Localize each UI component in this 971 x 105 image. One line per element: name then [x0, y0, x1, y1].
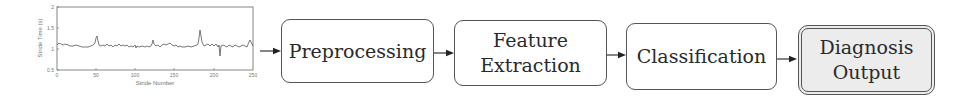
x-tick-label: 50 — [93, 72, 99, 78]
stride-time-plot: 2 1.5 1 0.5 0 50 100 150 200 250 Stride … — [0, 0, 262, 90]
arrow-plot-to-preprocessing — [260, 46, 282, 56]
x-tick-label: 200 — [210, 72, 219, 78]
y-tick-label: 0.5 — [47, 67, 54, 73]
preprocessing-label: Preprocessing — [289, 39, 427, 64]
arrow-right-icon — [434, 48, 455, 58]
x-tick-label: 150 — [170, 72, 179, 78]
x-axis-label: Stride Number — [136, 80, 175, 86]
stride-time-chart: 2 1.5 1 0.5 0 50 100 150 200 250 Stride … — [0, 0, 262, 90]
feature-extraction-label-line2: Extraction — [480, 53, 581, 78]
arrow-preprocessing-to-feature-extraction — [434, 48, 455, 58]
diagnosis-output-box: Diagnosis Output — [798, 25, 935, 95]
classification-box: Classification — [626, 23, 777, 90]
diagnosis-output-label-line2: Output — [833, 60, 900, 85]
diagnosis-output-label-line1: Diagnosis — [819, 35, 913, 60]
classification-label: Classification — [637, 44, 767, 69]
y-tick-label: 2 — [51, 4, 54, 10]
y-tick-label: 1 — [51, 46, 54, 52]
arrow-feature-extraction-to-classification — [607, 50, 627, 60]
plot-frame — [57, 7, 253, 70]
x-tick-label: 100 — [131, 72, 140, 78]
feature-extraction-box: Feature Extraction — [454, 20, 607, 86]
y-axis-label: Stride Time (s) — [37, 18, 43, 57]
arrow-right-icon — [607, 50, 627, 60]
arrow-right-icon — [260, 46, 282, 56]
x-tick-label: 0 — [56, 72, 59, 78]
preprocessing-box: Preprocessing — [281, 19, 434, 83]
arrow-classification-to-diagnosis-output — [777, 54, 798, 64]
feature-extraction-label-line1: Feature — [493, 28, 568, 53]
y-tick-label: 1.5 — [47, 25, 54, 31]
stride-time-line — [57, 30, 253, 56]
arrow-right-icon — [777, 54, 798, 64]
x-tick-label: 250 — [249, 72, 258, 78]
